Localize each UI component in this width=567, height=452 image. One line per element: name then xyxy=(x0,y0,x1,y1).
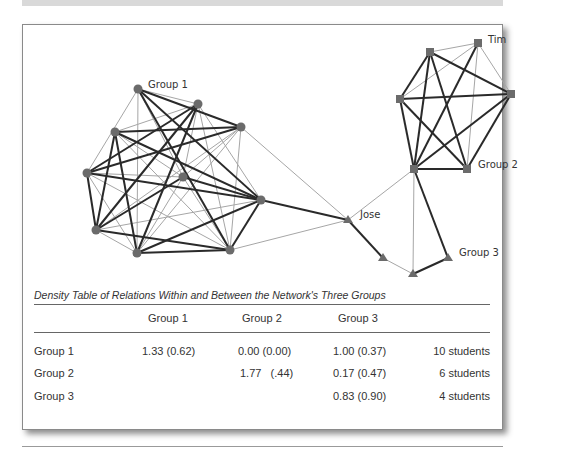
table-top-rule xyxy=(34,304,490,305)
group3-nodes xyxy=(343,215,453,277)
header-group2: Group 2 xyxy=(242,312,282,324)
cell-g1: 1.33 (0.62) xyxy=(142,345,195,357)
group1-label: Group 1 xyxy=(148,79,188,90)
group2-label: Group 2 xyxy=(478,159,518,170)
jose-label: Jose xyxy=(359,209,380,220)
cell-size: 4 students xyxy=(439,390,490,402)
cell-g2: 0.00 (0.00) xyxy=(238,345,291,357)
network-graph: Group 1 Tim Group 2 Jose Group 3 xyxy=(0,0,567,452)
cell-g3: 1.00 (0.37) xyxy=(333,345,386,357)
cell-size: 10 students xyxy=(433,345,490,357)
cell-size: 6 students xyxy=(439,367,490,379)
strong-edges xyxy=(87,43,511,274)
table-header-rule xyxy=(34,332,490,333)
row-label: Group 2 xyxy=(34,367,74,379)
cell-g2: 1.77 (.44) xyxy=(240,367,293,379)
weak-edges xyxy=(87,43,511,274)
tim-label: Tim xyxy=(487,34,506,45)
row-label: Group 1 xyxy=(34,345,74,357)
header-group3: Group 3 xyxy=(338,312,378,324)
row-label: Group 3 xyxy=(34,390,74,402)
header-group1: Group 1 xyxy=(148,312,188,324)
cell-g3: 0.83 (0.90) xyxy=(333,390,386,402)
group3-label: Group 3 xyxy=(459,247,499,258)
cell-g3: 0.17 (0.47) xyxy=(333,367,386,379)
table-caption: Density Table of Relations Within and Be… xyxy=(34,289,386,301)
